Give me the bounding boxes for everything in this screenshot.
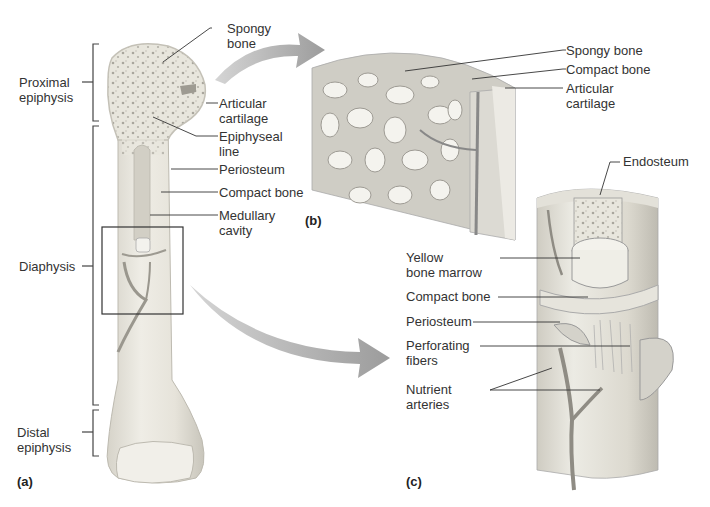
label-endosteum: Endosteum bbox=[623, 154, 689, 169]
label-articular-cartilage-a: Articular cartilage bbox=[219, 96, 268, 126]
label-medullary-cavity: Medullary cavity bbox=[219, 208, 275, 238]
label-spongy-bone-b: Spongy bone bbox=[566, 43, 643, 58]
label-nutrient-arteries: Nutrient arteries bbox=[406, 382, 452, 412]
label-periosteum-a: Periosteum bbox=[219, 162, 285, 177]
region-brackets bbox=[82, 44, 99, 456]
label-yellow-bone-marrow: Yellow bone marrow bbox=[406, 250, 482, 280]
diaphysis-cross-section bbox=[537, 189, 673, 490]
label-epiphyseal-line: Epiphyseal line bbox=[219, 129, 283, 159]
long-bone-drawing bbox=[102, 44, 205, 483]
label-proximal-epiphysis: Proximal epiphysis bbox=[19, 75, 73, 105]
label-compact-bone-b: Compact bone bbox=[566, 62, 651, 77]
panel-label-a: (a) bbox=[17, 474, 33, 489]
spongy-bone-block bbox=[312, 53, 515, 240]
label-perforating-fibers: Perforating fibers bbox=[406, 338, 470, 368]
label-articular-cartilage-b: Articular cartilage bbox=[566, 81, 615, 111]
label-spongy-bone-a: Spongy bone bbox=[227, 21, 271, 51]
label-compact-bone-a: Compact bone bbox=[219, 185, 304, 200]
label-compact-bone-c: Compact bone bbox=[406, 289, 491, 304]
arrow-to-c bbox=[190, 285, 390, 378]
panel-label-b: (b) bbox=[305, 213, 322, 228]
label-distal-epiphysis: Distal epiphysis bbox=[17, 425, 71, 455]
label-periosteum-c: Periosteum bbox=[406, 314, 472, 329]
label-diaphysis: Diaphysis bbox=[19, 259, 75, 274]
panel-label-c: (c) bbox=[406, 474, 422, 489]
